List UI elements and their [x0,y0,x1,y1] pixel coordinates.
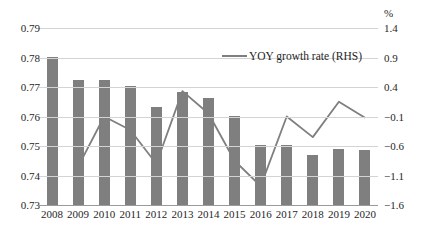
right-axis-tick-label: 0.4 [384,82,398,93]
left-axis-tick-label: 0.77 [21,82,40,93]
right-axis-tick-label: −0.6 [384,141,404,152]
gridline [39,176,378,177]
left-axis-tick-label: 0.76 [21,112,40,123]
legend-line-swatch-icon [222,55,247,57]
chart-container: % YOY growth rate (RHS) 0.730.740.750.76… [0,0,422,238]
right-axis-tick-label: 1.4 [384,23,398,34]
right-axis-tick-label: −1.6 [384,200,404,211]
gridline [39,28,378,29]
left-axis-tick-label: 0.75 [21,141,40,152]
gridline [39,146,378,147]
right-axis-unit-label: % [384,8,393,19]
left-axis-tick-label: 0.79 [21,23,40,34]
chart-legend: YOY growth rate (RHS) [222,50,362,62]
gridline [39,117,378,118]
legend-label-yoy-growth-rate: YOY growth rate (RHS) [247,50,362,62]
line-path-yoy-growth-rate [78,91,365,186]
gridline [39,87,378,88]
left-axis-tick-label: 0.78 [21,53,40,64]
right-axis-tick-label: −0.1 [384,112,404,123]
gridline [39,205,378,206]
left-axis-tick-label: 0.74 [21,171,40,182]
right-axis-tick-label: 0.9 [384,53,398,64]
right-axis-tick-label: −1.1 [384,171,404,182]
x-axis-tick-label: 2020 [350,209,380,220]
